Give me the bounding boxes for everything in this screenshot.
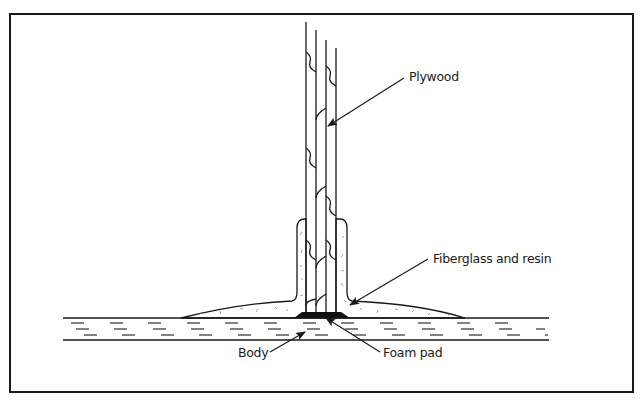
body-label: Body [238,347,268,360]
fiberglass-label: Fiberglass and resin [433,253,551,266]
foam-pad [294,312,350,318]
body-panel [63,318,549,340]
plywood-label: Plywood [409,71,459,84]
diagram-canvas [0,0,644,405]
foam-pad-label: Foam pad [383,347,442,360]
plywood-arrow [328,78,404,126]
fiberglass-arrow [350,259,428,305]
fiberglass-layer [181,219,465,318]
plywood-panel [306,22,336,313]
